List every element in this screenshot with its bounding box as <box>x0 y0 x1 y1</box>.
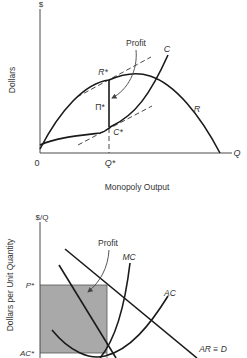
top-profit-arrow <box>112 50 136 98</box>
bottom-y-axis-title: Dollars per Unit Quantity <box>5 238 15 331</box>
profit-area <box>40 285 107 353</box>
pi-star-label: Π* <box>95 102 105 112</box>
bottom-profit-label: Profit <box>98 238 118 248</box>
cost-curve-label: C <box>164 44 171 54</box>
ac-label: AC <box>163 288 177 298</box>
r-star-label: R* <box>98 67 108 77</box>
top-x-axis-symbol: Q <box>233 148 240 158</box>
ac-star-label: AC* <box>19 349 35 358</box>
top-profit-label: Profit <box>126 38 146 48</box>
bottom-diagram: $/Q Dollars per Unit Quantity P* AC* MC … <box>5 213 227 358</box>
top-x-axis-title: Monopoly Output <box>105 182 170 192</box>
monopoly-diagrams: $ Q 0 Q* Dollars Monopoly Output R* C* Π… <box>0 0 247 358</box>
revenue-curve-label: R <box>194 104 201 114</box>
top-y-axis-title: Dollars <box>7 67 17 93</box>
c-star-label: C* <box>113 127 123 137</box>
demand-label: AR ≡ D <box>198 344 227 354</box>
top-y-axis-symbol: $ <box>39 0 44 9</box>
cost-tangent-line <box>78 106 152 145</box>
q-star-label: Q* <box>105 158 116 168</box>
mc-label: MC <box>122 252 136 262</box>
top-diagram: $ Q 0 Q* Dollars Monopoly Output R* C* Π… <box>7 0 241 192</box>
origin-label: 0 <box>34 158 39 168</box>
revenue-tangent-line <box>77 57 151 97</box>
p-star-label: P* <box>26 281 35 290</box>
bottom-y-axis-symbol: $/Q <box>36 213 49 222</box>
